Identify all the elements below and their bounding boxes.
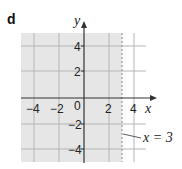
inequality-graph: d y x −4 −2 0 2 4 4 2 −2 −4 x = 3 [0, 0, 182, 169]
origin-label: 0 [74, 99, 81, 113]
x-axis-label: x [144, 101, 152, 116]
x-tick: 2 [105, 102, 112, 116]
y-tick: 4 [74, 40, 81, 54]
boundary-label: x = 3 [142, 130, 173, 145]
boundary-leader [123, 134, 141, 138]
y-axis-label: y [72, 13, 81, 28]
y-tick: −4 [68, 143, 82, 157]
part-label: d [7, 11, 16, 27]
y-axis-arrow-icon [81, 21, 87, 28]
x-tick: −4 [26, 102, 40, 116]
x-tick: 4 [130, 102, 137, 116]
y-tick: −2 [68, 118, 82, 132]
x-tick: −2 [50, 102, 64, 116]
y-tick: 2 [74, 65, 81, 79]
